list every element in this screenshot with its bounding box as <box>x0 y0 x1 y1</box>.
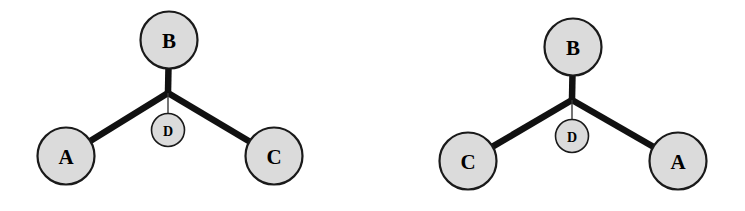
node-right-d: D <box>556 120 589 153</box>
tree-diagram-left-canvas: BACD <box>0 0 372 211</box>
node-label-b: B <box>162 29 176 53</box>
figure-root: BACD BCAD <box>0 0 745 211</box>
node-group-left: BACD <box>38 12 303 185</box>
node-label-b: B <box>566 36 580 60</box>
node-label-a: A <box>670 150 686 174</box>
node-label-c: C <box>266 145 281 169</box>
node-label-c: C <box>460 150 475 174</box>
node-left-b: B <box>141 12 198 69</box>
tree-diagram-left: BACD <box>0 0 372 211</box>
node-left-c: C <box>246 128 303 185</box>
node-label-d: D <box>163 124 173 139</box>
node-left-a: A <box>38 128 95 185</box>
node-label-a: A <box>58 145 74 169</box>
tree-diagram-right: BCAD <box>373 0 745 211</box>
node-right-c: C <box>440 133 497 190</box>
tree-diagram-right-canvas: BCAD <box>373 0 745 211</box>
node-right-b: B <box>545 19 602 76</box>
node-label-d: D <box>567 130 577 145</box>
node-left-d: D <box>152 114 185 147</box>
node-right-a: A <box>650 133 707 190</box>
